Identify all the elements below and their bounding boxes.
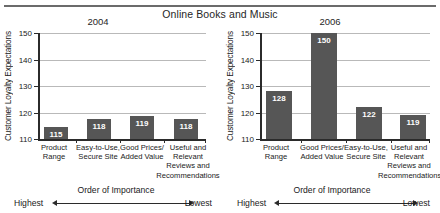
bar-easy-to-use-secure-site[interactable]: 118 [87,119,111,139]
y-tick-label-130: 130 [241,82,254,91]
bar-value-label: 128 [266,94,292,103]
cat-line: Relevant [156,152,220,161]
gridline-130 [260,86,430,87]
y-tick-label-150: 150 [19,29,32,38]
bar-value-label: 150 [311,36,337,45]
y-tick-label-140: 140 [241,55,254,64]
y-axis-title: Customer Loyalty Expectations [224,33,236,140]
bar-good-prices-added-value[interactable]: 119 [130,116,154,139]
y-tick-110 [256,139,260,140]
y-tick-140 [256,60,260,61]
bar-useful-relevant-reviews[interactable]: 119 [400,115,426,139]
y-tick-label-140: 140 [19,55,32,64]
panel-year-label: 2006 [220,16,440,27]
bar-product-range[interactable]: 128 [266,91,292,139]
x-axis-line [260,139,430,141]
bar-value-label: 118 [174,122,198,131]
cat-line: Useful and [378,143,440,152]
panel-year-label: 2004 [0,16,208,27]
y-tick-110 [34,139,38,140]
bar-value-label: 119 [400,118,426,127]
order-highest-label: Highest [237,198,266,208]
y-tick-150 [34,33,38,34]
order-of-importance-title: Order of Importance [6,185,226,195]
order-arrow-line [56,203,190,204]
x-axis-line [38,139,206,141]
cat-line: Recommendations [156,171,220,180]
bar-good-prices-added-value[interactable]: 150 [311,33,337,139]
bar-value-label: 122 [356,110,382,119]
y-tick-120 [256,113,260,114]
category-label-useful-relevant: Useful and Relevant Reviews and Recommen… [378,143,440,180]
chart-panel-2004: 2004 Customer Loyalty Expectations 150 1… [0,0,220,213]
gridline-150 [38,33,206,34]
order-of-importance-block: Order of Importance Highest Lowest [220,186,440,212]
order-lowest-label: Lowest [185,198,212,208]
bar-value-label: 119 [130,119,154,128]
y-axis-line [260,33,262,140]
gridline-130 [38,86,206,87]
order-arrow-row: Highest Lowest [220,197,440,211]
bar-product-range[interactable]: 115 [44,127,68,139]
order-of-importance-block: Order of Importance Highest Lowest [0,186,220,212]
y-tick-label-120: 120 [19,108,32,117]
chart-panel-2006: 2006 Customer Loyalty Expectations 150 1… [220,0,440,213]
y-tick-120 [34,113,38,114]
bar-useful-relevant-reviews[interactable]: 118 [174,119,198,139]
y-tick-140 [34,60,38,61]
category-label-useful-relevant: Useful and Relevant Reviews and Recommen… [156,143,220,180]
y-tick-150 [256,33,260,34]
y-tick-130 [256,86,260,87]
bar-value-label: 118 [87,122,111,131]
order-arrow-line [278,203,414,204]
gridline-140 [260,60,430,61]
order-highest-label: Highest [14,198,43,208]
bar-value-label: 115 [44,130,68,139]
cat-line: Relevant [378,152,440,161]
bar-easy-to-use-secure-site[interactable]: 122 [356,107,382,139]
y-tick-label-150: 150 [241,29,254,38]
plot-area-2006: 150 140 130 120 110 128 150 122 119 [260,33,430,140]
order-arrow-row: Highest Lowest [0,197,220,211]
y-axis-title: Customer Loyalty Expectations [2,33,14,140]
cat-line: Recommendations [378,171,440,180]
plot-area-2004: 150 140 130 120 110 115 118 119 118 [38,33,206,140]
cat-line: Useful and [156,143,220,152]
figure-container: Online Books and Music 2004 Customer Loy… [0,0,440,213]
y-tick-130 [34,86,38,87]
y-tick-label-130: 130 [19,82,32,91]
gridline-150 [260,33,430,34]
y-tick-label-120: 120 [241,108,254,117]
order-lowest-label: Lowest [403,198,430,208]
gridline-140 [38,60,206,61]
cat-line: Reviews and [378,161,440,170]
gridline-120 [38,113,206,114]
cat-line: Reviews and [156,161,220,170]
y-axis-line [38,33,40,140]
order-of-importance-title: Order of Importance [222,185,440,195]
